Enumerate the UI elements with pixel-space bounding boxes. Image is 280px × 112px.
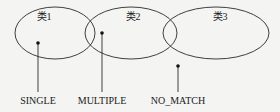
venn-diagram: 类1 类2 类3 SINGLE MULTIPLE NO_MATCH [0,0,280,112]
marker-label-no-match: NO_MATCH [151,96,205,106]
point-dot [36,41,40,45]
set-ellipse-1 [15,7,95,59]
marker-label-multiple: MULTIPLE [78,96,127,106]
point-dot [176,64,180,68]
set-label-2: 类2 [126,12,141,22]
point-dot [100,31,104,35]
set-label-1: 类1 [37,12,52,22]
set-label-3: 类3 [213,12,228,22]
marker-label-single: SINGLE [20,96,56,106]
